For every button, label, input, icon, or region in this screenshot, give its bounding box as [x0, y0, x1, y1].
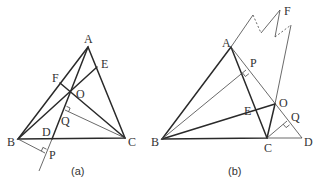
dashed-segment-1-b — [253, 15, 261, 33]
line-a-up-b — [231, 15, 253, 47]
label-o-a: O — [76, 87, 85, 101]
segment-bp-b — [162, 70, 246, 139]
figure-b: A F P E O Q B C D (b) — [151, 4, 313, 177]
right-angle-p-a — [41, 147, 46, 151]
label-a-a: A — [84, 32, 93, 46]
label-f-b: F — [284, 4, 291, 18]
label-f-a: F — [52, 71, 59, 85]
right-angle-q-b — [283, 124, 289, 127]
figure-a: A E F O Q D B C P (a) — [7, 32, 136, 177]
segment-bp-a — [18, 139, 45, 153]
label-a-b: A — [222, 36, 231, 50]
label-b-a: B — [7, 135, 15, 149]
segment-cf-a — [60, 83, 125, 138]
line-to-f-b — [261, 10, 280, 33]
caption-a: (a) — [71, 165, 84, 177]
label-p-a: P — [49, 148, 56, 162]
label-c-b: C — [264, 141, 272, 155]
label-b-b: B — [151, 135, 159, 149]
line-ad-b — [231, 47, 302, 138]
caption-b: (b) — [228, 165, 241, 177]
label-q-a: Q — [61, 114, 70, 128]
right-angle-p-b — [243, 73, 249, 77]
geometry-diagram: A E F O Q D B C P (a) A — [0, 0, 316, 185]
label-e-b: E — [244, 104, 251, 118]
label-e-a: E — [101, 57, 108, 71]
label-d-a: D — [42, 125, 51, 139]
label-q-b: Q — [291, 110, 300, 124]
label-o-b: O — [279, 96, 288, 110]
label-c-a: C — [128, 135, 136, 149]
label-p-b: P — [250, 56, 257, 70]
line-down-to-o-b — [275, 25, 291, 104]
segment-bo-b — [162, 104, 275, 139]
segment-co-b — [267, 104, 275, 138]
line-f-down-b — [275, 10, 280, 37]
label-d-b: D — [304, 135, 313, 149]
